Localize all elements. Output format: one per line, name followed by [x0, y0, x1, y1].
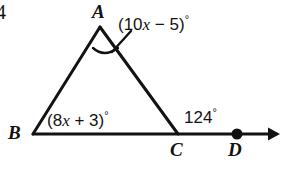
side-ac-line [100, 27, 178, 134]
angle-label-exterior: 124° [184, 107, 217, 126]
exterior-angle-degree-symbol: ° [212, 106, 216, 118]
apex-angle-prefix: (10 [118, 15, 143, 34]
angle-label-apex: (10x − 5)° [118, 14, 189, 33]
base-angle-variable: x [62, 111, 70, 130]
vertex-label-d: D [228, 140, 242, 159]
angle-label-base-left: (8x + 3)° [47, 110, 109, 129]
apex-angle-suffix: − 5) [150, 15, 185, 34]
point-d-dot [232, 129, 243, 140]
base-angle-suffix: + 3) [70, 111, 105, 130]
vertex-label-c: C [170, 140, 183, 159]
geometry-figure: 4 A B C D (10x − 5)° (8x + 3)° 124° [0, 0, 283, 175]
apex-angle-leader-line [112, 31, 131, 52]
vertex-label-b: B [8, 123, 21, 142]
ray-arrowhead [268, 128, 280, 141]
apex-angle-variable: x [143, 15, 151, 34]
base-angle-prefix: (8 [47, 111, 62, 130]
apex-angle-degree-symbol: ° [185, 13, 189, 25]
exterior-angle-value: 124 [184, 108, 212, 127]
vertex-label-a: A [92, 2, 105, 21]
base-angle-degree-symbol: ° [104, 109, 108, 121]
